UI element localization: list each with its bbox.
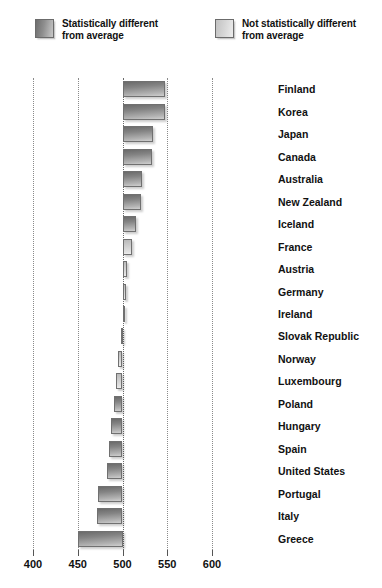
legend-label-not-significant: Not statistically different from average	[242, 18, 356, 41]
bar-slovak-republic[interactable]	[121, 328, 123, 344]
category-label-norway: Norway	[278, 353, 316, 365]
bar-japan[interactable]	[123, 126, 153, 142]
chart-root: Statistically different from average Not…	[0, 0, 382, 588]
bar-germany[interactable]	[123, 284, 127, 300]
x-tick-label-550: 550	[158, 558, 176, 570]
chart-row	[0, 438, 382, 460]
bar-poland[interactable]	[114, 396, 123, 412]
chart-row	[0, 78, 382, 100]
bar-new-zealand[interactable]	[123, 194, 142, 210]
chart-row	[0, 280, 382, 302]
legend-swatch-not-significant-icon	[215, 19, 234, 38]
x-tick-label-400: 400	[24, 558, 42, 570]
bar-iceland[interactable]	[123, 216, 136, 232]
bar-hungary[interactable]	[111, 418, 123, 434]
category-label-luxembourg: Luxembourg	[278, 375, 342, 387]
category-label-poland: Poland	[278, 398, 313, 410]
x-tick-500	[123, 550, 124, 556]
legend-item-significant: Statistically different from average	[35, 18, 158, 41]
category-label-korea: Korea	[278, 106, 308, 118]
category-label-greece: Greece	[278, 533, 314, 545]
chart-row	[0, 168, 382, 190]
category-label-japan: Japan	[278, 128, 308, 140]
bar-italy[interactable]	[97, 508, 123, 524]
legend-item-not-significant: Not statistically different from average	[215, 18, 356, 41]
x-tick-label-500: 500	[113, 558, 131, 570]
category-label-united-states: United States	[278, 465, 345, 477]
chart-row	[0, 123, 382, 145]
chart-row	[0, 213, 382, 235]
chart-row	[0, 393, 382, 415]
bar-luxembourg[interactable]	[116, 373, 122, 389]
chart-row	[0, 483, 382, 505]
x-tick-600	[212, 550, 213, 556]
category-label-germany: Germany	[278, 286, 324, 298]
chart-row	[0, 505, 382, 527]
bar-portugal[interactable]	[98, 486, 122, 502]
bar-spain[interactable]	[109, 441, 122, 457]
x-tick-550	[167, 550, 168, 556]
category-label-ireland: Ireland	[278, 308, 312, 320]
category-label-new-zealand: New Zealand	[278, 196, 342, 208]
x-tick-400	[33, 550, 34, 556]
bar-korea[interactable]	[123, 104, 165, 120]
bar-greece[interactable]	[78, 531, 123, 547]
category-label-france: France	[278, 241, 312, 253]
x-tick-label-450: 450	[69, 558, 87, 570]
category-label-iceland: Iceland	[278, 218, 314, 230]
category-label-austria: Austria	[278, 263, 314, 275]
category-label-hungary: Hungary	[278, 420, 321, 432]
category-label-spain: Spain	[278, 443, 307, 455]
bar-finland[interactable]	[123, 81, 166, 97]
category-label-finland: Finland	[278, 83, 315, 95]
bar-norway[interactable]	[118, 351, 122, 367]
chart-legend: Statistically different from average Not…	[0, 18, 382, 64]
x-tick-450	[78, 550, 79, 556]
bar-australia[interactable]	[123, 171, 143, 187]
chart-row	[0, 303, 382, 325]
chart-row	[0, 235, 382, 257]
bar-austria[interactable]	[123, 261, 127, 277]
chart-row	[0, 145, 382, 167]
bar-france[interactable]	[123, 239, 133, 255]
category-label-slovak-republic: Slovak Republic	[278, 330, 359, 342]
legend-swatch-significant-icon	[35, 19, 54, 38]
bar-ireland[interactable]	[123, 306, 125, 322]
chart-row	[0, 415, 382, 437]
chart-row	[0, 528, 382, 550]
category-label-canada: Canada	[278, 151, 316, 163]
category-label-australia: Australia	[278, 173, 323, 185]
category-label-italy: Italy	[278, 510, 299, 522]
plot-area: FinlandKoreaJapanCanadaAustraliaNew Zeal…	[0, 78, 382, 550]
x-axis: 400450500550600	[0, 550, 382, 588]
chart-row	[0, 348, 382, 370]
x-tick-label-600: 600	[203, 558, 221, 570]
category-label-portugal: Portugal	[278, 488, 321, 500]
bar-united-states[interactable]	[107, 463, 122, 479]
bar-canada[interactable]	[123, 149, 153, 165]
legend-label-significant: Statistically different from average	[62, 18, 158, 41]
chart-row	[0, 100, 382, 122]
chart-row	[0, 258, 382, 280]
